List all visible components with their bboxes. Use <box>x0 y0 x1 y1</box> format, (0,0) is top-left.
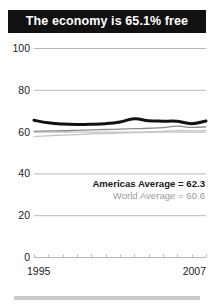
gridlines <box>34 49 206 258</box>
y-axis-tick-label: 20 <box>4 210 30 221</box>
x-axis-end-label: 2007 <box>183 266 206 277</box>
chart-title-banner: The economy is 65.1% free <box>8 10 206 33</box>
plot-area <box>0 36 214 268</box>
y-axis-tick-label: 60 <box>4 127 30 138</box>
x-axis-tick-labels: 1995 2007 <box>0 266 214 284</box>
page-title: The economy is 65.1% free <box>26 15 188 28</box>
y-axis-tick-label: 80 <box>4 85 30 96</box>
economy-freedom-chart-card: The economy is 65.1% free 020406080100 1… <box>0 0 214 306</box>
bottom-rule <box>14 296 200 300</box>
data-series-group <box>34 119 206 137</box>
y-axis-tick-labels: 020406080100 <box>0 36 30 268</box>
y-axis-tick-label: 0 <box>4 252 30 263</box>
y-axis-tick-label: 100 <box>4 43 30 54</box>
series-line-country <box>34 119 206 125</box>
plot-svg <box>0 36 214 268</box>
average-annotations: Americas Average = 62.3 World Average = … <box>92 178 205 202</box>
americas-average-label: Americas Average = 62.3 <box>92 178 205 190</box>
y-axis-tick-label: 40 <box>4 168 30 179</box>
world-average-label: World Average = 60.6 <box>92 190 205 202</box>
x-axis-start-label: 1995 <box>27 266 50 277</box>
